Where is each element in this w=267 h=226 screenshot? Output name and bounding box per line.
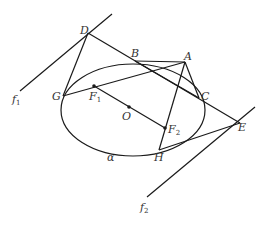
point-F1 <box>92 84 96 88</box>
segment-DG <box>63 33 88 96</box>
label-C: C <box>201 90 210 103</box>
label-H: H <box>153 151 164 164</box>
point-O <box>127 105 131 109</box>
label-G: G <box>52 90 61 103</box>
label-O: O <box>122 110 131 123</box>
line-f1 <box>20 14 112 91</box>
label-B: B <box>130 47 139 60</box>
label-f1: f1 <box>11 93 21 107</box>
label-F1: F1 <box>88 90 101 104</box>
label-E: E <box>237 121 246 134</box>
label-A: A <box>183 50 192 63</box>
segment-AH <box>159 62 185 150</box>
geometry-diagram: D B A C G F1 O F2 H E α f1 f2 <box>0 0 267 226</box>
point-F2 <box>163 126 167 130</box>
label-F2: F2 <box>167 123 180 137</box>
label-D: D <box>79 24 89 37</box>
segment-BA <box>135 61 185 62</box>
label-alpha: α <box>107 151 115 164</box>
label-f2: f2 <box>139 201 149 215</box>
